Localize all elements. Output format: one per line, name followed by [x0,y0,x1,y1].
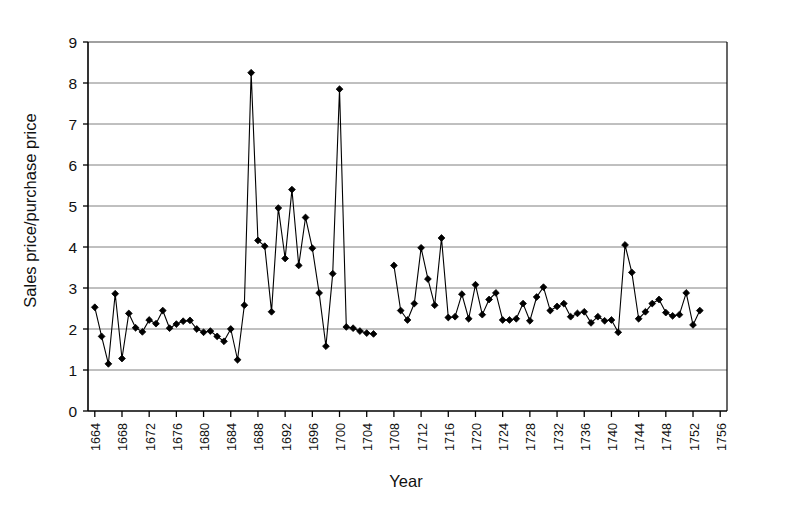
data-point-marker [574,310,581,317]
data-point-marker [554,303,561,310]
y-tick-label: 2 [68,321,77,338]
data-point-marker [98,333,105,340]
data-point-marker [153,320,160,327]
x-tick-label: 1684 [225,423,239,451]
data-point-marker [336,86,343,93]
data-point-marker [323,343,330,350]
data-point-marker [418,244,425,251]
y-tick-label: 1 [68,362,77,379]
data-point-marker [465,315,472,322]
data-point-marker [424,276,431,283]
x-tick-label: 1704 [361,423,375,451]
data-point-marker [628,269,635,276]
data-point-markers [91,69,703,367]
data-point-marker [479,311,486,318]
data-point-marker [173,321,180,328]
data-point-marker [533,294,540,301]
data-point-marker [615,329,622,336]
data-point-marker [180,318,187,325]
chart-container: Sales price/purchase price 0123456789 16… [0,0,812,512]
data-point-marker [166,325,173,332]
data-point-marker [431,302,438,309]
data-point-marker [146,317,153,324]
data-point-marker [282,255,289,262]
data-point-marker [391,262,398,269]
data-point-marker [608,317,615,324]
data-point-marker [513,315,520,322]
x-tick-label: 1752 [688,423,702,451]
data-point-marker [458,291,465,298]
data-point-marker [676,311,683,318]
data-point-marker [329,270,336,277]
data-point-marker [91,304,98,311]
y-tick-label: 8 [68,75,77,92]
x-tick-label: 1696 [307,423,321,451]
x-tick-label: 1672 [144,423,158,451]
data-point-marker [540,284,547,291]
y-tick-label: 0 [68,403,77,420]
y-tick-label: 3 [68,280,77,297]
data-point-marker [526,317,533,324]
data-point-marker [560,300,567,307]
data-point-marker [472,281,479,288]
data-point-marker [200,329,207,336]
axis-lines [88,42,727,411]
data-point-marker [506,317,513,324]
data-point-marker [363,330,370,337]
y-axis-title: Sales price/purchase price [21,113,40,307]
y-axis-title-wrap: Sales price/purchase price [0,0,60,420]
y-tick-label: 6 [68,157,77,174]
y-axis-tick-labels: 0123456789 [68,34,77,420]
series-line-0 [95,73,374,364]
x-tick-label: 1736 [579,423,593,451]
x-tick-label: 1688 [252,423,266,451]
data-point-marker [316,290,323,297]
x-tick-label: 1748 [660,423,674,451]
x-tick-label: 1708 [388,423,402,451]
data-point-marker [669,312,676,319]
data-point-marker [547,307,554,314]
data-point-marker [248,69,255,76]
data-point-marker [234,356,241,363]
data-point-marker [268,308,275,315]
x-tick-label: 1664 [89,423,103,451]
data-point-marker [656,296,663,303]
data-point-marker [132,324,139,331]
x-tick-label: 1744 [633,423,647,451]
data-point-marker [119,355,126,362]
data-point-marker [601,317,608,324]
series-line-1 [394,238,700,332]
x-axis-tick-labels: 1664166816721676168016841688169216961700… [89,423,728,451]
data-point-marker [227,326,234,333]
x-tick-label: 1692 [280,423,294,451]
y-tick-label: 5 [68,198,77,215]
data-point-marker [350,325,357,332]
data-point-marker [370,331,377,338]
data-point-marker [125,310,132,317]
data-point-marker [581,308,588,315]
data-point-marker [411,300,418,307]
data-point-marker [445,314,452,321]
data-point-marker [105,360,112,367]
data-point-marker [438,235,445,242]
data-point-marker [690,322,697,329]
y-tick-label: 7 [68,116,77,133]
data-point-marker [302,214,309,221]
x-tick-label: 1756 [715,423,729,451]
data-point-marker [289,186,296,193]
x-tick-label: 1724 [497,423,511,451]
x-tick-label: 1740 [606,423,620,451]
data-point-marker [452,313,459,320]
x-tick-label: 1716 [443,423,457,451]
x-tick-label: 1700 [334,423,348,451]
data-point-marker [112,290,119,297]
y-tick-label: 9 [68,34,77,51]
data-point-marker [309,245,316,252]
data-point-marker [295,262,302,269]
x-axis-ticks [95,411,720,417]
x-axis-title: Year [0,472,812,491]
x-tick-label: 1732 [552,423,566,451]
x-tick-label: 1720 [470,423,484,451]
data-point-marker [662,309,669,316]
y-tick-label: 4 [68,239,77,256]
